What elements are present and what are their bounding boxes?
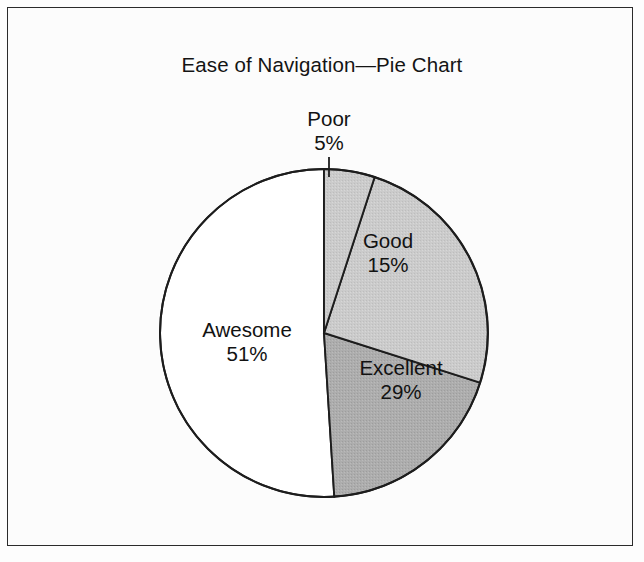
- pie-label-awesome-name: Awesome: [202, 318, 292, 341]
- pie-label-excellent-name: Excellent: [359, 356, 442, 379]
- pie-label-poor-value: 5%: [284, 131, 374, 155]
- pie-label-good: Good 15%: [336, 229, 440, 277]
- pie-label-awesome: Awesome 51%: [173, 318, 321, 366]
- pie-label-good-name: Good: [363, 229, 413, 252]
- pie-label-excellent: Excellent 29%: [331, 356, 471, 404]
- pie-label-excellent-value: 29%: [331, 380, 471, 404]
- pie-chart-figure: Ease of Navigation—Pie Chart: [0, 0, 644, 562]
- pie-chart-graphic: [0, 0, 644, 562]
- pie-label-awesome-value: 51%: [173, 342, 321, 366]
- pie-label-good-value: 15%: [336, 253, 440, 277]
- pie-label-poor: Poor 5%: [284, 107, 374, 155]
- pie-label-poor-name: Poor: [307, 107, 350, 130]
